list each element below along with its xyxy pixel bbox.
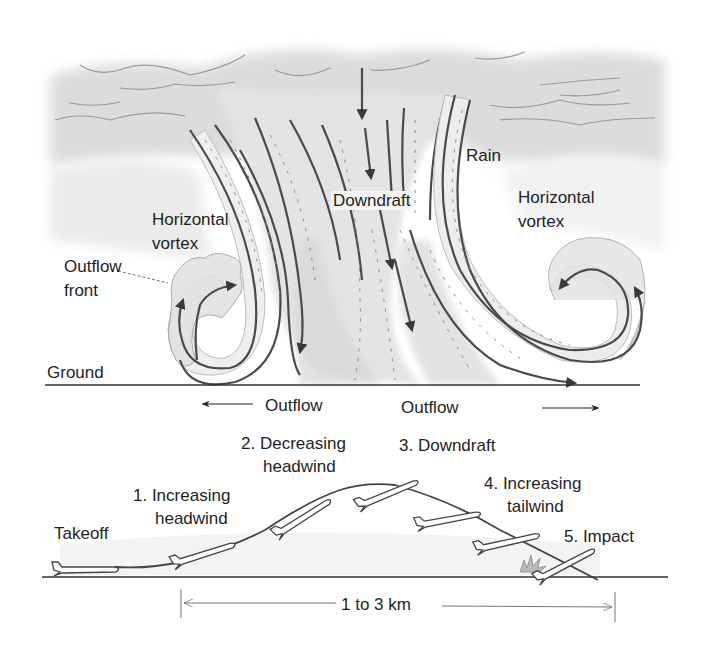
diagram-canvas (0, 0, 703, 651)
rain-label: Rain (466, 146, 501, 165)
right-vortex-label-line1: Horizontal (518, 188, 595, 207)
stage2-label-line2: headwind (263, 457, 336, 476)
outflow-front-label-line2: front (64, 281, 98, 300)
outflow-front-label-line1: Outflow (64, 257, 122, 276)
distance-label: 1 to 3 km (341, 595, 411, 614)
outflow-left-label: Outflow (265, 396, 323, 415)
stage3-label: 3. Downdraft (399, 436, 495, 455)
stage-takeoff-label: Takeoff (54, 524, 109, 543)
aircraft-stage4a-icon (414, 506, 482, 531)
left-vortex-label-line2: vortex (152, 234, 198, 253)
stage2-label-line1: 2. Decreasing (241, 434, 346, 453)
stage1-label-line1: 1. Increasing (133, 486, 230, 505)
downdraft-label: Downdraft (331, 191, 412, 210)
aircraft-stage3-icon (353, 475, 420, 513)
ground-label: Ground (47, 363, 104, 382)
right-vortex-label-line2: vortex (518, 212, 564, 231)
stage5-label: 5. Impact (564, 527, 634, 546)
microburst-diagram: Rain Downdraft Horizontal vortex Horizon… (0, 0, 703, 651)
left-vortex-label-line1: Horizontal (152, 210, 229, 229)
outflow-right-label: Outflow (401, 398, 459, 417)
stage4-label-line1: 4. Increasing (484, 474, 581, 493)
stage4-label-line2: tailwind (507, 497, 564, 516)
outflow-front-leader (118, 271, 168, 283)
stage1-label-line2: headwind (155, 509, 228, 528)
